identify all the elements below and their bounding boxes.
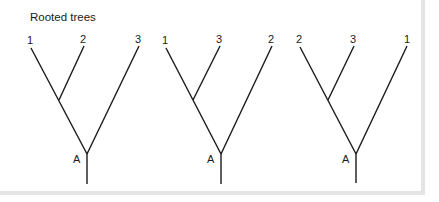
tree-2-leaf-b: 3 (216, 33, 222, 45)
trees-canvas: 1 2 3 A 1 3 2 A 2 3 1 A (0, 0, 439, 202)
rooted-tree-2 (166, 46, 272, 184)
tree-2-leaf-a: 1 (162, 34, 168, 46)
rooted-tree-3 (300, 46, 407, 183)
tree-3-leaf-c: 1 (404, 33, 410, 45)
tree-3-root-label: A (342, 153, 350, 165)
tree-1-root-label: A (73, 153, 81, 165)
tree-2-root-label: A (207, 153, 215, 165)
tree-1-leaf-c: 3 (135, 33, 141, 45)
tree-1-leaf-a: 1 (27, 34, 33, 46)
tree-3-leaf-a: 2 (296, 33, 302, 45)
tree-1-leaf-b: 2 (80, 33, 86, 45)
rooted-tree-1 (31, 46, 139, 184)
tree-3-leaf-b: 3 (350, 33, 356, 45)
tree-2-leaf-c: 2 (268, 33, 274, 45)
